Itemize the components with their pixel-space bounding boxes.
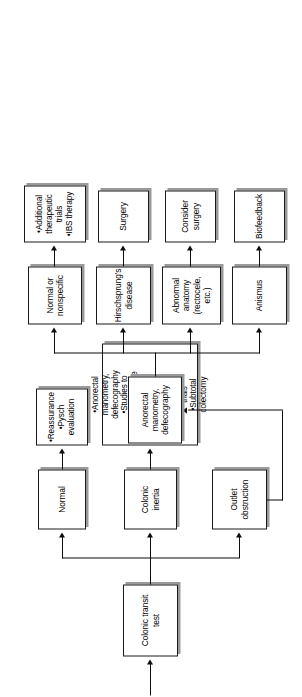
node-normal-or-nonspecific[interactable]: Normal or nonspecific bbox=[28, 266, 82, 324]
node-outlet-obstruction-label: Outlet obstruction bbox=[229, 479, 250, 519]
arrowhead-normal bbox=[59, 532, 65, 537]
node-normal-treatment-label: •Reassurance •Pysch evaluation bbox=[47, 392, 77, 442]
edge-nonspecific-to-treatment bbox=[54, 249, 55, 266]
node-normal[interactable]: Normal bbox=[38, 469, 86, 529]
node-nonspecific-treatment-label: •Additional therapeutic trials •IBS ther… bbox=[35, 191, 74, 235]
arrowhead-consider-surgery bbox=[187, 245, 193, 250]
arrowhead-anorectal-entry bbox=[182, 407, 187, 413]
node-anismus[interactable]: Anismus bbox=[232, 266, 287, 324]
node-anorectal-manometry[interactable]: Anorectal manometry, defecography bbox=[128, 376, 182, 443]
node-abnormal-anatomy-label: Abnormal anatomy (rectocele, etc.) bbox=[171, 269, 212, 321]
arrowhead-normal-treatment bbox=[59, 448, 65, 453]
node-colonic-transit-test[interactable]: Colonic transit test bbox=[123, 584, 178, 656]
edge-outlet-elbow-h bbox=[282, 410, 283, 500]
edge-anorectal-to-nonspecific bbox=[54, 331, 55, 353]
edge-outlet-elbow-v1 bbox=[267, 499, 283, 500]
node-normal-treatment[interactable]: •Reassurance •Pysch evaluation bbox=[36, 388, 88, 445]
arrowhead-inertia bbox=[147, 532, 153, 537]
edge-entry-transit bbox=[150, 663, 151, 695]
node-anismus-label: Anismus bbox=[254, 279, 264, 310]
arrowhead-anatomy bbox=[187, 327, 193, 332]
edge-anorectal-bus bbox=[54, 352, 260, 353]
edge-inertia-to-treatment bbox=[150, 452, 151, 469]
node-normal-label: Normal bbox=[57, 486, 67, 512]
node-surgery[interactable]: Surgery bbox=[98, 190, 149, 242]
node-colonic-transit-test-label: Colonic transit test bbox=[140, 594, 161, 646]
node-outlet-obstruction[interactable]: Outlet obstruction bbox=[212, 469, 267, 529]
node-colonic-inertia[interactable]: Colonic inertia bbox=[124, 469, 177, 529]
node-biofeedback-label: Biofeedback bbox=[254, 194, 264, 239]
edge-transit-spine bbox=[150, 557, 151, 584]
node-biofeedback[interactable]: Biofeedback bbox=[234, 190, 285, 242]
edge-anismus-to-biofeedback bbox=[259, 249, 260, 266]
figure-viewport: Colonic transit test Normal Colonic iner… bbox=[0, 0, 302, 697]
edge-outlet-elbow-v2 bbox=[188, 409, 283, 410]
arrowhead-biofeedback bbox=[256, 245, 262, 250]
node-consider-surgery[interactable]: Consider surgery bbox=[165, 190, 216, 242]
edge-transit-to-inertia bbox=[150, 536, 151, 558]
arrowhead-anismus bbox=[256, 327, 262, 332]
node-surgery-label: Surgery bbox=[118, 202, 128, 231]
node-colonic-inertia-label: Colonic inertia bbox=[140, 485, 161, 512]
arrowhead-hirschsprungs bbox=[120, 327, 126, 332]
arrowhead-surgery bbox=[120, 245, 126, 250]
edge-anorectal-spine bbox=[155, 352, 156, 376]
node-consider-surgery-label: Consider surgery bbox=[180, 200, 201, 233]
node-normal-or-nonspecific-label: Normal or nonspecific bbox=[45, 275, 66, 316]
flowchart-stage: Colonic transit test Normal Colonic iner… bbox=[0, 0, 302, 697]
edge-anorectal-to-anatomy bbox=[190, 331, 191, 353]
node-nonspecific-treatment[interactable]: •Additional therapeutic trials •IBS ther… bbox=[24, 185, 86, 242]
edge-anatomy-to-consider-surgery bbox=[190, 249, 191, 266]
edge-normal-to-treatment bbox=[62, 452, 63, 469]
arrowhead-nonspecific-treatment bbox=[51, 245, 57, 250]
node-anorectal-manometry-label: Anorectal manometry, defecography bbox=[140, 379, 171, 440]
edge-anorectal-to-anismus bbox=[259, 331, 260, 353]
arrowhead-entry-transit bbox=[147, 659, 153, 664]
arrowhead-inertia-treatment bbox=[147, 448, 153, 453]
edge-transit-to-normal bbox=[62, 536, 63, 558]
node-abnormal-anatomy[interactable]: Abnormal anatomy (rectocele, etc.) bbox=[162, 266, 221, 324]
edge-anorectal-to-hirschsprungs bbox=[123, 331, 124, 353]
edge-transit-to-outlet bbox=[239, 536, 240, 558]
node-hirschsprungs-disease-label: Hirschsprung's disease bbox=[113, 268, 134, 322]
edge-hirschsprungs-to-surgery bbox=[123, 249, 124, 266]
arrowhead-outlet bbox=[236, 532, 242, 537]
arrowhead-nonspecific bbox=[51, 327, 57, 332]
node-hirschsprungs-disease[interactable]: Hirschsprung's disease bbox=[96, 266, 151, 324]
